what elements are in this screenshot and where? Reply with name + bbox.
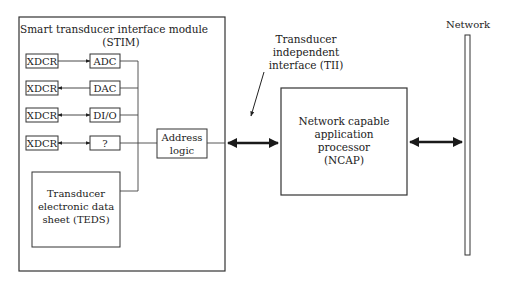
address-logic-line1: Address [161,132,203,143]
dac-label: DAC [94,83,117,94]
unknown-block-label: ? [102,138,107,149]
ncap-line4: (NCAP) [324,154,364,166]
teds-line2: electronic data [38,201,114,212]
tii-label-line1: Transducer [275,33,337,45]
stim-title-line2: (STIM) [102,36,139,48]
network-label: Network [446,19,491,30]
address-logic-line2: logic [170,145,195,156]
xdcr-label: XDCR [27,83,58,94]
network-bus [465,35,470,255]
tii-label-line3: interface (TII) [269,59,344,71]
tii-label-line2: independent [273,46,340,58]
ncap-line2: application [314,128,373,140]
dio-label: DI/O [93,110,117,121]
stim-row-adc: XDCR ADC [26,54,120,68]
adc-label: ADC [93,56,117,67]
stim-ncap-diagram: Smart transducer interface module (STIM)… [0,0,505,282]
ncap-line1: Network capable [298,115,389,127]
stim-title-line1: Smart transducer interface module [20,23,208,35]
tii-pointer-arrow [251,72,264,116]
teds-line1: Transducer [47,188,105,199]
xdcr-label: XDCR [27,138,58,149]
stim-row-unknown: XDCR ? [26,136,120,150]
stim-row-dio: XDCR DI/O [26,108,120,122]
ncap-line3: processor [318,141,371,153]
stim-row-dac: XDCR DAC [26,81,120,95]
internal-bus [120,61,157,191]
xdcr-label: XDCR [27,56,58,67]
teds-line3: sheet (TEDS) [42,214,109,225]
xdcr-label: XDCR [27,110,58,121]
